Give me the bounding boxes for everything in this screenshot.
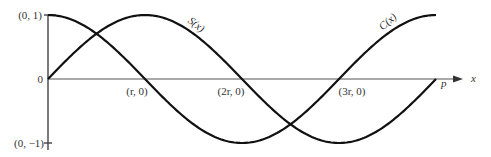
x-axis-label: x: [470, 72, 476, 84]
x-label-r: (r, 0): [126, 85, 148, 98]
x-axis-arrow-icon: [453, 76, 463, 83]
x-label-p: p: [440, 77, 447, 89]
sine-cosine-plot: (0, 1) 0 (0, −1) (r, 0) (2r, 0) (3r, 0) …: [0, 0, 491, 157]
y-label-zero: 0: [38, 73, 44, 85]
x-label-2r: (2r, 0): [217, 85, 244, 98]
y-label-top: (0, 1): [18, 9, 42, 22]
x-label-3r: (3r, 0): [338, 85, 365, 98]
y-label-bottom: (0, −1): [14, 137, 44, 150]
curve-label-c: C(x): [376, 10, 399, 33]
curve-label-s: S(x): [185, 14, 207, 35]
